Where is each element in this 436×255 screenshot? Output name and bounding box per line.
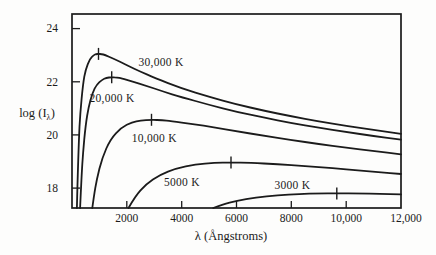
x-tick-label-4000: 4000: [170, 212, 193, 224]
curve-3000k: [213, 193, 401, 208]
y-tick-label-24: 24: [47, 22, 59, 34]
x-axis-title: λ (Ångstroms): [195, 229, 267, 243]
tick-labels-group: 200040006000800010,00012,00018202224: [47, 22, 423, 225]
curve-label-20000k: 20,000 K: [89, 92, 135, 105]
y-axis-title-text: log (I: [19, 106, 46, 120]
x-tick-label-2000: 2000: [115, 212, 138, 224]
curve-label-10000k: 10,000 K: [132, 132, 178, 145]
curve-label-30000k: 30,000 K: [138, 56, 184, 69]
x-tick-label-12000: 12,000: [390, 212, 422, 225]
y-tick-label-20: 20: [47, 129, 59, 141]
x-tick-label-6000: 6000: [225, 212, 248, 224]
curve-label-3000k: 3000 K: [274, 179, 310, 191]
y-axis-title: log (Iλ): [19, 106, 55, 122]
y-tick-label-22: 22: [47, 76, 59, 88]
y-axis-title-close-paren: ): [51, 106, 55, 120]
curves-group: [77, 54, 401, 208]
y-tick-label-18: 18: [47, 182, 59, 194]
x-tick-label-8000: 8000: [280, 212, 303, 224]
peak-ticks-group: [99, 48, 337, 200]
figure-blackbody-spectra: 200040006000800010,00012,00018202224 30,…: [0, 0, 436, 255]
curve-labels-group: 30,000 K20,000 K10,000 K5000 K3000 K: [89, 56, 310, 191]
curve-label-5000k: 5000 K: [164, 176, 200, 188]
x-tick-label-10000: 10,000: [330, 212, 362, 225]
planck-intensity-chart: 200040006000800010,00012,00018202224 30,…: [0, 0, 436, 255]
